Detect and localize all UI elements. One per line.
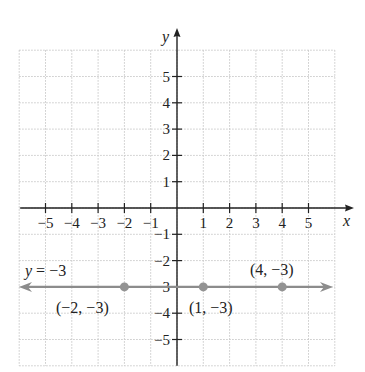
x-tick-label: 4 — [278, 215, 286, 231]
data-point — [199, 282, 208, 291]
coordinate-plane: −5−4−3−2−11234554321−1−2−3−4−5 y x y = −… — [0, 0, 365, 372]
equation-rhs: = −3 — [32, 262, 66, 279]
x-tick-label: 2 — [226, 215, 234, 231]
y-tick-label: 1 — [163, 174, 171, 190]
point-label-c: (4, −3) — [250, 261, 294, 279]
point-label-a: (−2, −3) — [56, 299, 109, 317]
x-tick-label: 5 — [305, 215, 313, 231]
x-axis-arrow-icon — [345, 205, 354, 212]
y-tick-label: 4 — [163, 95, 171, 111]
y-tick-label: −2 — [154, 253, 170, 269]
y-tick-label: −4 — [154, 305, 170, 321]
x-axis-label: x — [342, 212, 350, 229]
equation-label: y = −3 — [23, 262, 66, 280]
data-point — [120, 282, 129, 291]
y-tick-label: −1 — [154, 226, 170, 242]
x-tick-label: 3 — [252, 215, 260, 231]
y-tick-label: 3 — [163, 121, 171, 137]
y-axis-label: y — [160, 28, 170, 46]
x-tick-label: −4 — [64, 215, 80, 231]
y-tick-label: 5 — [163, 69, 171, 85]
y-tick-label: −5 — [154, 332, 170, 348]
x-tick-label: −3 — [90, 215, 106, 231]
x-tick-label: 1 — [200, 215, 208, 231]
point-label-b: (1, −3) — [189, 299, 233, 317]
y-tick-label: 2 — [163, 147, 171, 163]
x-tick-label: −2 — [116, 215, 132, 231]
data-point — [278, 282, 287, 291]
y-axis-arrow-icon — [174, 28, 181, 37]
x-tick-label: −5 — [38, 215, 54, 231]
